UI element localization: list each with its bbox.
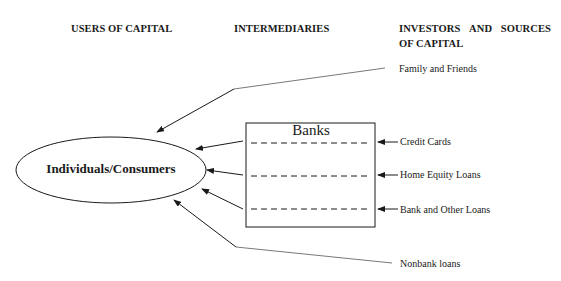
arrow-nonbank-to-consumer [174,200,236,247]
source-nonbank-loans: Nonbank loans [400,258,460,269]
arrow-banks-credit-to-consumer [196,141,243,149]
banks-label: Banks [246,122,376,139]
arrow-banks-home-to-consumer [207,170,243,175]
line-nonbank-source [236,247,392,263]
source-credit-cards: Credit Cards [400,136,451,147]
source-home-equity-loans: Home Equity Loans [400,169,481,180]
source-bank-other-loans: Bank and Other Loans [400,204,490,215]
line-family-source [234,68,385,89]
diagram-canvas [0,0,561,281]
arrow-banks-bank-to-consumer [202,189,243,209]
consumer-label: Individuals/Consumers [16,161,206,177]
source-family-friends: Family and Friends [399,63,477,74]
arrow-family-to-consumer [157,89,234,132]
